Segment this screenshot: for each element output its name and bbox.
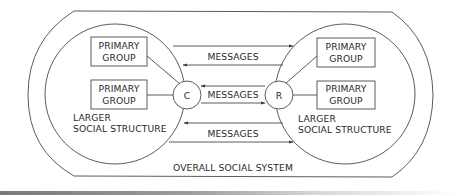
right-primary-group-1: PRIMARY GROUP <box>317 38 375 67</box>
right-structure-label-line2: SOCIAL STRUCTURE <box>298 124 392 135</box>
right-primary-group-1-line2: GROUP <box>329 53 363 64</box>
node-c-label: C <box>184 90 191 101</box>
left-structure-label-line1: LARGER <box>73 112 111 123</box>
overall-system-label: OVERALL SOCIAL SYSTEM <box>173 162 293 173</box>
right-primary-group-2-line2: GROUP <box>329 95 363 106</box>
left-primary-group-1: PRIMARY GROUP <box>91 37 147 66</box>
communicator-node-c: C <box>173 81 201 109</box>
right-primary-group-2: PRIMARY GROUP <box>317 81 375 109</box>
communication-diagram: MESSAGES MESSAGES MESSAGES PRIMARY GROUP… <box>0 0 458 195</box>
left-structure-label-line2: SOCIAL STRUCTURE <box>73 123 167 134</box>
bottom-channel-label: MESSAGES <box>207 128 258 139</box>
middle-channel-label: MESSAGES <box>207 89 258 100</box>
top-channel-label: MESSAGES <box>207 51 258 62</box>
left-primary-group-2-line2: GROUP <box>102 95 136 106</box>
left-primary-group-1-line2: GROUP <box>102 52 136 63</box>
right-structure-label-line1: LARGER <box>298 113 336 124</box>
left-group1-connector <box>147 56 180 84</box>
right-group1-connector <box>285 56 317 84</box>
right-primary-group-1-line1: PRIMARY <box>326 41 367 52</box>
receiver-node-r: R <box>265 81 293 109</box>
bottom-divider <box>0 191 458 195</box>
node-r-label: R <box>276 90 283 101</box>
left-primary-group-2: PRIMARY GROUP <box>91 80 147 109</box>
right-primary-group-2-line1: PRIMARY <box>326 83 367 94</box>
left-primary-group-1-line1: PRIMARY <box>99 40 140 51</box>
left-primary-group-2-line1: PRIMARY <box>99 83 140 94</box>
